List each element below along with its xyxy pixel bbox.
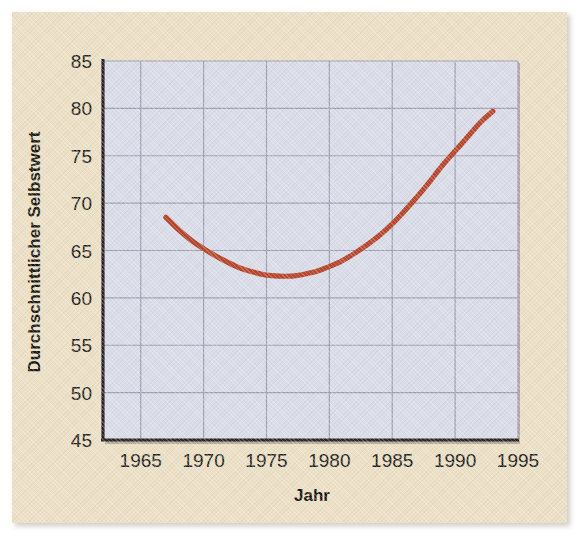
x-tick-label-1990: 1990 (434, 450, 476, 471)
x-tick-label-1965: 1965 (120, 450, 162, 471)
y-tick-label-45: 45 (71, 430, 92, 451)
y-tick-label-70: 70 (71, 193, 92, 214)
x-tick-label-1975: 1975 (245, 450, 287, 471)
y-tick-label-50: 50 (71, 383, 92, 404)
x-axis-tick-labels: 1965197019751980198519901995 (120, 450, 540, 471)
x-tick-label-1985: 1985 (371, 450, 413, 471)
figure-card: 455055606570758085 196519701975198019851… (12, 12, 567, 523)
x-tick-label-1980: 1980 (308, 450, 350, 471)
y-axis-tick-labels: 455055606570758085 (71, 51, 92, 451)
y-tick-label-75: 75 (71, 146, 92, 167)
y-tick-label-55: 55 (71, 335, 92, 356)
y-tick-label-60: 60 (71, 288, 92, 309)
x-axis-title: Jahr (294, 486, 330, 505)
plot-texture (103, 61, 518, 440)
x-tick-label-1970: 1970 (182, 450, 224, 471)
y-axis-title: Durchschnittlicher Selbstwert (25, 131, 44, 372)
x-tick-label-1995: 1995 (497, 450, 539, 471)
self-esteem-by-year-chart: 455055606570758085 196519701975198019851… (12, 12, 567, 523)
y-tick-label-80: 80 (71, 98, 92, 119)
y-tick-label-65: 65 (71, 241, 92, 262)
y-tick-label-85: 85 (71, 51, 92, 72)
